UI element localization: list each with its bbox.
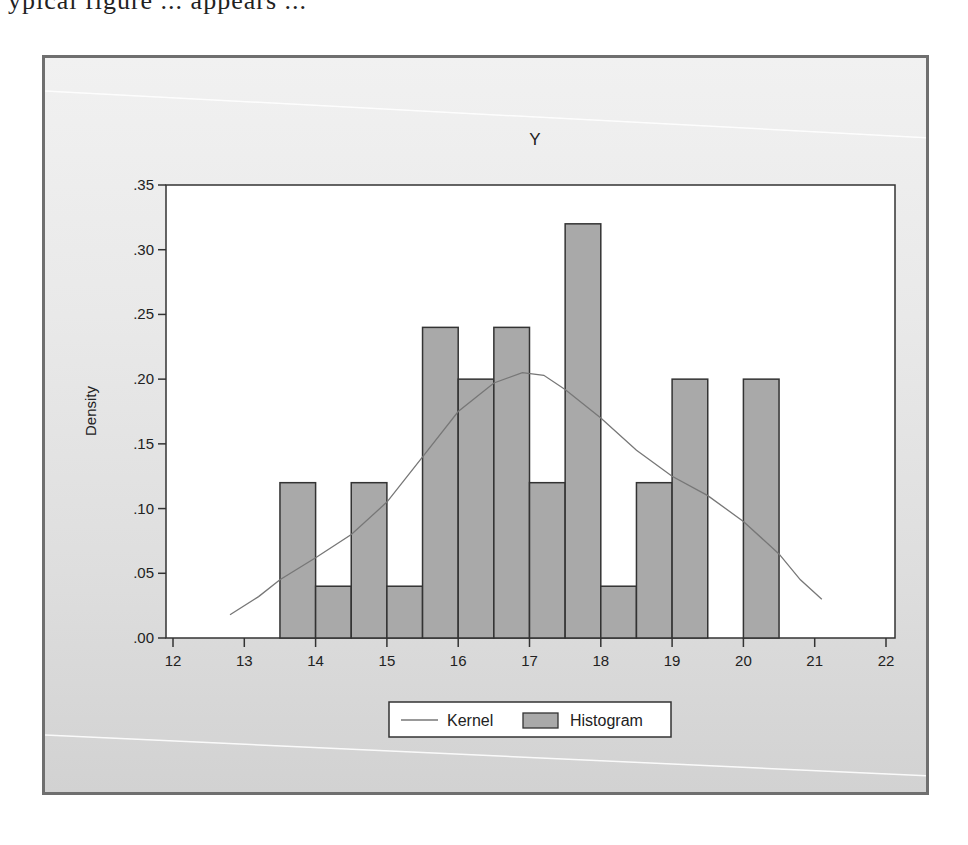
histogram-bar	[423, 327, 459, 638]
histogram-bar	[565, 224, 601, 638]
histogram-bar	[458, 379, 494, 638]
x-tick-label: 20	[735, 652, 752, 669]
y-tick-label: .35	[133, 176, 154, 193]
x-tick-label: 16	[450, 652, 467, 669]
y-tick-label: .10	[133, 500, 154, 517]
histogram-bar	[387, 586, 423, 638]
y-axis-label: Density	[82, 385, 99, 436]
y-tick-label: .05	[133, 564, 154, 581]
histogram-bar	[601, 586, 637, 638]
histogram-bar	[494, 327, 530, 638]
chart-title: Y	[529, 130, 540, 149]
y-tick-label: .20	[133, 370, 154, 387]
legend-kernel-label: Kernel	[447, 712, 493, 729]
histogram-bar	[672, 379, 708, 638]
x-tick-label: 12	[165, 652, 182, 669]
x-tick-label: 21	[806, 652, 823, 669]
histogram-bar	[743, 379, 779, 638]
y-tick-label: .15	[133, 435, 154, 452]
histogram-bar	[351, 483, 387, 638]
x-axis: 1213141516171819202122	[165, 638, 895, 669]
y-tick-label: .25	[133, 305, 154, 322]
histogram-bar	[530, 483, 566, 638]
y-tick-label: .30	[133, 241, 154, 258]
y-tick-label: .00	[133, 629, 154, 646]
y-axis: .00.05.10.15.20.25.30.35	[133, 176, 166, 646]
x-tick-label: 18	[592, 652, 609, 669]
legend-histogram-swatch-icon	[523, 713, 558, 728]
x-tick-label: 15	[379, 652, 396, 669]
legend: Kernel Histogram	[389, 702, 671, 737]
legend-histogram-label: Histogram	[570, 712, 643, 729]
histogram-bar	[636, 483, 672, 638]
x-tick-label: 17	[521, 652, 538, 669]
histogram-chart: Y .00.05.10.15.20.25.30.35 1213141516171…	[0, 0, 968, 845]
x-tick-label: 22	[878, 652, 895, 669]
histogram-bar	[316, 586, 352, 638]
x-tick-label: 14	[307, 652, 324, 669]
x-tick-label: 13	[236, 652, 253, 669]
x-tick-label: 19	[664, 652, 681, 669]
